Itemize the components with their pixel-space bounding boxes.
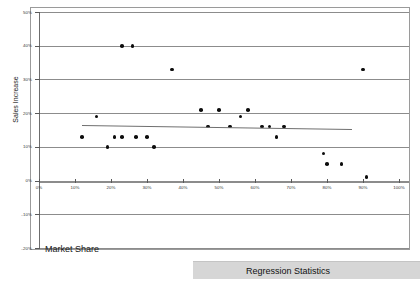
data-point (145, 135, 149, 139)
data-point (134, 135, 138, 139)
data-point (275, 135, 279, 139)
x-axis-tick (327, 179, 328, 183)
y-axis-tick (35, 147, 40, 148)
data-point (199, 108, 203, 112)
y-axis-tick-label: -10% (0, 212, 32, 217)
y-axis-tick (35, 248, 40, 249)
x-axis-line (39, 182, 409, 183)
x-axis-tick-label: 70% (276, 185, 306, 190)
data-point (80, 135, 84, 139)
y-axis-tick-label: 40% (0, 43, 32, 48)
data-point (95, 115, 99, 119)
x-axis-tick-label: 60% (240, 185, 270, 190)
data-point (325, 162, 329, 166)
scatter-chart-figure: 50%40%30%20%10%0%-10%-20% 0%10%20%30%40%… (0, 0, 420, 281)
x-axis-tick-label: 40% (168, 185, 198, 190)
y-axis-tick-label: 50% (0, 10, 32, 15)
gridline-y (39, 12, 409, 13)
data-point (365, 175, 369, 179)
data-point (120, 44, 124, 48)
x-axis-tick (39, 179, 40, 183)
x-axis-tick (111, 179, 112, 183)
x-axis-tick-label: 0% (24, 185, 54, 190)
data-point (113, 135, 117, 139)
y-axis-tick (35, 12, 40, 13)
data-point (106, 145, 110, 149)
gridline-y (39, 113, 409, 114)
data-point (361, 68, 365, 72)
x-axis-tick-label: 10% (60, 185, 90, 190)
x-axis-tick-label: 20% (96, 185, 126, 190)
y-axis-tick (35, 46, 40, 47)
plot-area: 50%40%30%20%10%0%-10%-20% 0%10%20%30%40%… (0, 0, 420, 281)
x-axis-tick (147, 179, 148, 183)
y-axis-tick (35, 113, 40, 114)
gridline-y (39, 147, 409, 148)
x-axis-tick-label: 50% (204, 185, 234, 190)
x-axis-tick (291, 179, 292, 183)
y-axis-tick (35, 79, 40, 80)
x-axis-tick-label: 80% (312, 185, 342, 190)
regression-statistics-title: Regression Statistics (193, 265, 383, 277)
gridline-y (39, 79, 409, 80)
x-axis-tick (255, 179, 256, 183)
data-point (340, 162, 344, 166)
x-axis-title: Market Share (45, 243, 99, 255)
data-point (239, 115, 243, 119)
data-point (120, 135, 124, 139)
x-axis-tick-label: 90% (348, 185, 378, 190)
y-axis-title: Sales Increase (11, 50, 20, 150)
gridline-y (39, 46, 409, 47)
trendline (82, 125, 352, 130)
x-axis-tick (363, 179, 364, 183)
x-axis-tick-label: 30% (132, 185, 162, 190)
y-axis-tick-label: 0% (0, 178, 32, 183)
data-point (152, 145, 156, 149)
x-axis-tick (399, 179, 400, 183)
x-axis-tick (183, 179, 184, 183)
data-point (131, 44, 135, 48)
y-axis-tick-label: -20% (0, 246, 32, 251)
x-axis-tick-label: 100% (384, 185, 414, 190)
data-point (322, 152, 326, 156)
x-axis-tick (219, 179, 220, 183)
gridline-y (39, 181, 409, 182)
data-point (246, 108, 250, 112)
data-point (170, 68, 174, 72)
regression-statistics-banner: Regression Statistics (193, 261, 420, 279)
x-axis-tick (75, 179, 76, 183)
y-axis-tick (35, 214, 40, 215)
data-point (217, 108, 221, 112)
gridline-y (39, 214, 409, 215)
